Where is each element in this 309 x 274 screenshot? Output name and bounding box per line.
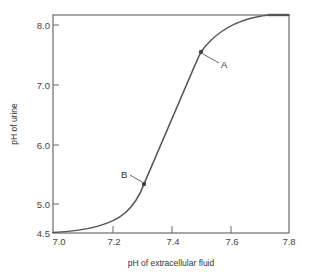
x-axis-label: pH of extracellular fluid — [128, 258, 215, 268]
x-tick-label: 7.2 — [107, 236, 120, 247]
y-tick-label: 8.0 — [37, 20, 50, 31]
y-tick-label: 4.5 — [37, 228, 50, 239]
x-tick-label: 7.8 — [282, 236, 295, 247]
x-tick-label: 7.6 — [225, 236, 238, 247]
point-a-label: A — [221, 59, 228, 70]
chart-canvas: 8.0 7.0 6.0 5.0 4.5 7.0 7.2 7.4 7.6 7.8 … — [0, 0, 309, 274]
x-tick-label: 7.0 — [52, 236, 65, 247]
point-b-marker — [142, 182, 146, 186]
y-tick-label: 6.0 — [37, 140, 50, 151]
point-a-marker — [199, 50, 203, 54]
data-curve — [53, 15, 289, 233]
y-axis-ticks — [53, 25, 59, 204]
y-tick-label: 7.0 — [37, 80, 50, 91]
y-tick-label: 5.0 — [37, 199, 50, 210]
point-b-leader — [130, 175, 142, 182]
y-axis-tick-labels: 8.0 7.0 6.0 5.0 4.5 — [37, 20, 50, 239]
x-tick-label: 7.4 — [166, 236, 179, 247]
plot-frame — [53, 15, 289, 233]
x-axis-tick-labels: 7.0 7.2 7.4 7.6 7.8 — [52, 236, 295, 247]
point-a-leader — [203, 54, 219, 63]
x-axis-ticks — [113, 226, 231, 233]
point-b-label: B — [121, 169, 127, 180]
y-axis-label: pH of urine — [9, 103, 19, 145]
